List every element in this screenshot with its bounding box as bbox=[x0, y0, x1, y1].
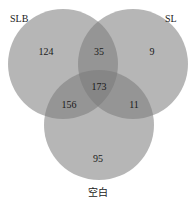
region-all: 173 bbox=[92, 81, 107, 92]
set-label-sl: SL bbox=[165, 13, 177, 24]
region-sl-only: 9 bbox=[150, 46, 155, 57]
venn-diagram: SLB SL 空白 124 35 9 173 156 11 95 bbox=[0, 0, 195, 203]
region-sl-blank: 11 bbox=[129, 99, 139, 110]
region-blank-only: 95 bbox=[93, 153, 103, 164]
region-slb-only: 124 bbox=[39, 46, 54, 57]
region-slb-blank: 156 bbox=[62, 99, 77, 110]
set-label-slb: SLB bbox=[10, 13, 29, 24]
region-slb-sl: 35 bbox=[94, 46, 104, 57]
set-label-blank: 空白 bbox=[88, 186, 108, 198]
